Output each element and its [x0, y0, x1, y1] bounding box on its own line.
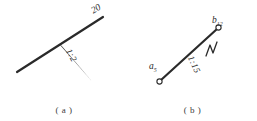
figure-panel-a: 20 1:2 ( a ) — [0, 0, 128, 121]
node-marker-a — [157, 79, 162, 84]
point-label-b-subscript: 12 — [217, 21, 223, 27]
figure-caption-a: ( a ) — [0, 105, 128, 115]
main-line — [17, 17, 103, 72]
figure-panel-b: a5 b12 1:15 ( b ) — [128, 0, 257, 121]
point-label-a-subscript: 5 — [154, 67, 157, 73]
slope-line — [59, 44, 92, 82]
figure-caption-b: ( b ) — [128, 105, 257, 115]
figure-sheet: 20 1:2 ( a ) a5 b12 1:15 ( b ) — [0, 0, 257, 121]
point-label-b: b12 — [212, 16, 223, 28]
segment-line — [161, 29, 217, 80]
figure-a-drawing — [0, 0, 128, 121]
point-label-a: a5 — [149, 62, 157, 74]
slope-tick-mark — [206, 42, 217, 56]
